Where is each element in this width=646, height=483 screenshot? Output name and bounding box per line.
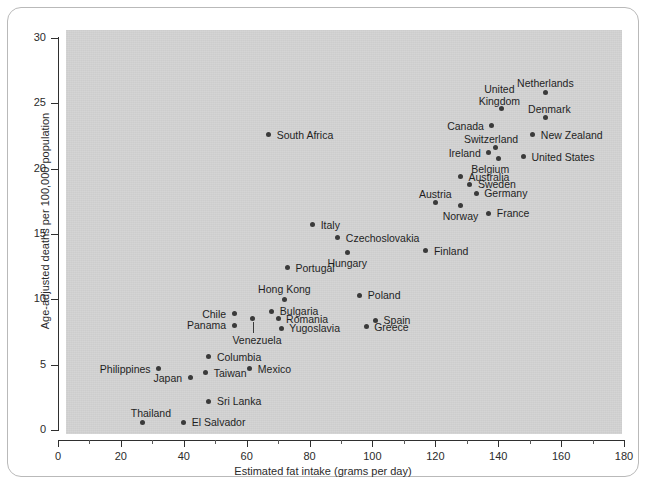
point-label: Chile: [202, 309, 226, 320]
x-tick-label-100: 100: [352, 450, 392, 462]
point-label: Mexico: [258, 364, 291, 375]
x-tick-label-140: 140: [478, 450, 518, 462]
point-label: Sri Lanka: [217, 396, 261, 407]
x-tick-label-60: 60: [227, 450, 267, 462]
point-label: Venezuela: [232, 335, 281, 346]
data-point: [364, 324, 369, 329]
x-tick-20: [121, 440, 122, 447]
x-tick-label-160: 160: [541, 450, 581, 462]
y-tick-10: [51, 299, 58, 300]
x-minor-tick-150: [530, 440, 531, 444]
x-tick-label-120: 120: [415, 450, 455, 462]
point-label: Hong Kong: [258, 284, 311, 295]
point-label: Finland: [434, 246, 468, 257]
data-point: [373, 318, 378, 323]
point-label: Belgium: [471, 164, 509, 175]
x-minor-tick-110: [404, 440, 405, 444]
data-point: [458, 203, 463, 208]
x-tick-0: [58, 440, 59, 447]
x-tick-140: [498, 440, 499, 447]
y-tick-30: [51, 38, 58, 39]
x-tick-label-20: 20: [101, 450, 141, 462]
data-point: [181, 420, 186, 425]
data-point: [499, 106, 504, 111]
point-label: Panama: [187, 320, 226, 331]
y-tick-20: [51, 169, 58, 170]
point-label: Thailand: [131, 408, 171, 419]
point-label: Philippines: [100, 364, 151, 375]
y-axis-line: [58, 37, 59, 431]
x-tick-label-0: 0: [38, 450, 78, 462]
point-label: Taiwan: [214, 368, 247, 379]
point-label: Czechoslovakia: [346, 233, 420, 244]
y-tick-label-0: 0: [5, 424, 46, 435]
point-label: United States: [531, 152, 594, 163]
data-point: [496, 156, 501, 161]
data-point: [433, 200, 438, 205]
data-point: [279, 326, 284, 331]
data-point: [458, 174, 463, 179]
x-tick-100: [372, 440, 373, 447]
point-label: Bulgaria: [280, 306, 319, 317]
x-minor-tick-90: [341, 440, 342, 444]
y-tick-25: [51, 103, 58, 104]
x-tick-160: [561, 440, 562, 447]
label-leader-line: [253, 322, 254, 333]
data-point: [232, 311, 237, 316]
point-label: Netherlands: [517, 78, 574, 89]
x-tick-40: [184, 440, 185, 447]
point-label: Italy: [321, 220, 340, 231]
y-axis-title: Age-adjusted deaths per 100,000 populati…: [39, 21, 51, 421]
point-label: Columbia: [217, 352, 261, 363]
point-label: Switzerland: [464, 134, 518, 145]
x-minor-tick-130: [467, 440, 468, 444]
point-label: South Africa: [277, 130, 334, 141]
data-point: [345, 250, 350, 255]
x-minor-tick-10: [89, 440, 90, 444]
data-point: [232, 323, 237, 328]
point-label: Poland: [368, 290, 401, 301]
x-tick-label-180: 180: [604, 450, 644, 462]
point-label: Ireland: [449, 148, 481, 159]
x-minor-tick-30: [152, 440, 153, 444]
point-label: Hungary: [327, 258, 367, 269]
point-label: UnitedKingdom: [479, 83, 520, 107]
figure-scatter-plot: 051015202530 020406080100120140160180 Th…: [0, 0, 646, 483]
x-tick-180: [624, 440, 625, 447]
data-point: [282, 297, 287, 302]
x-minor-tick-70: [278, 440, 279, 444]
x-tick-120: [435, 440, 436, 447]
point-label: France: [497, 208, 530, 219]
point-label: Japan: [153, 373, 182, 384]
x-minor-tick-50: [215, 440, 216, 444]
x-tick-80: [310, 440, 311, 447]
data-point: [188, 375, 193, 380]
point-label: Spain: [384, 315, 411, 326]
point-label: Denmark: [528, 104, 571, 115]
y-tick-15: [51, 234, 58, 235]
data-point: [486, 211, 491, 216]
y-tick-5: [51, 365, 58, 366]
x-tick-60: [247, 440, 248, 447]
point-label: New Zealand: [541, 130, 603, 141]
data-point: [474, 191, 479, 196]
point-label: Austria: [419, 189, 452, 200]
data-point: [269, 309, 274, 314]
data-point: [493, 145, 498, 150]
x-tick-label-80: 80: [290, 450, 330, 462]
x-tick-label-40: 40: [164, 450, 204, 462]
x-axis-title: Estimated fat intake (grams per day): [0, 465, 646, 477]
point-label: Canada: [447, 121, 484, 132]
y-tick-0: [51, 430, 58, 431]
point-label: El Salvador: [192, 417, 246, 428]
point-label: Norway: [443, 211, 479, 222]
x-minor-tick-170: [593, 440, 594, 444]
